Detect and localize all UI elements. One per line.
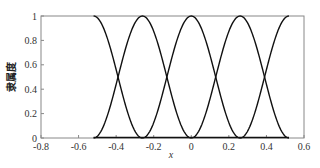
y-tick-label: 0.2 xyxy=(25,108,38,119)
y-axis-label: 隶属度 xyxy=(5,61,17,92)
x-tick-label: -0.6 xyxy=(71,141,87,152)
y-tick-label: 0.8 xyxy=(25,35,38,46)
membership-curve-5 xyxy=(240,16,289,138)
x-tick-label: 0.6 xyxy=(298,141,311,152)
x-tick-label: 0.2 xyxy=(223,141,236,152)
y-tick-label: 0.4 xyxy=(25,84,38,95)
x-tick-label: -0.4 xyxy=(108,141,124,152)
y-tick-label: 0 xyxy=(32,133,37,144)
x-tick-label: 0.4 xyxy=(260,141,273,152)
y-tick-label: 0.6 xyxy=(25,59,38,70)
membership-function-chart: -0.8-0.6-0.4-0.200.20.40.6 00.20.40.60.8… xyxy=(0,0,320,168)
x-axis-label: x xyxy=(168,149,174,160)
x-tick-label: -0.2 xyxy=(146,141,162,152)
membership-curves xyxy=(94,16,289,138)
membership-curve-4 xyxy=(191,16,289,138)
membership-curve-2 xyxy=(94,16,192,138)
y-tick-labels: 00.20.40.60.81 xyxy=(25,11,38,144)
x-tick-label: 0 xyxy=(189,141,194,152)
y-tick-label: 1 xyxy=(32,11,37,22)
membership-curve-3 xyxy=(142,16,240,138)
